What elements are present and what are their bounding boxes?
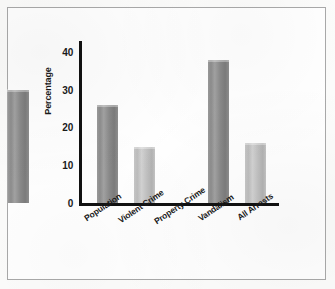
bar-population (97, 105, 118, 203)
chart-frame: Percentage 0 10 20 30 40 Population Viol… (7, 7, 326, 280)
bar-chart: Percentage 0 10 20 30 40 Population Viol… (8, 8, 327, 281)
y-tick-label-20: 20 (49, 122, 73, 133)
y-tick-label-40: 40 (49, 47, 73, 58)
y-tick-label-30: 30 (49, 85, 73, 96)
scanned-page: Percentage 0 10 20 30 40 Population Viol… (0, 0, 335, 289)
y-tick-label-0: 0 (49, 198, 73, 209)
y-tick-label-10: 10 (49, 160, 73, 171)
bar-vandalism (208, 60, 229, 203)
bar-property-crime (8, 90, 29, 203)
y-axis-line (79, 41, 82, 206)
